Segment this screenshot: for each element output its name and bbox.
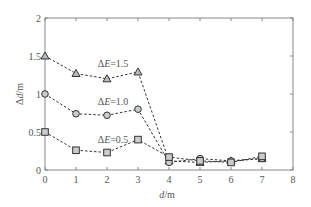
square-marker: [73, 147, 80, 154]
circle-marker: [135, 106, 142, 113]
square-marker: [42, 129, 49, 136]
plot-frame: [45, 18, 293, 170]
triangle-marker: [134, 68, 142, 75]
y-tick-label: 1: [36, 89, 41, 100]
line-chart: 01234567800.511.52d/mΔd/mΔE=1.5ΔE=1.0ΔE=…: [0, 0, 311, 207]
series-annotation: ΔE=1.0: [98, 96, 129, 107]
square-marker: [166, 154, 173, 161]
y-tick-label: 0.5: [29, 127, 42, 138]
x-tick-label: 7: [260, 174, 265, 185]
series-annotation: ΔE=0.5: [98, 134, 129, 145]
y-tick-label: 0: [36, 165, 41, 176]
y-tick-label: 1.5: [29, 51, 42, 62]
square-marker: [259, 153, 266, 160]
x-tick-label: 1: [74, 174, 79, 185]
x-tick-label: 3: [136, 174, 141, 185]
square-marker: [197, 158, 204, 165]
y-tick-label: 2: [36, 13, 41, 24]
square-marker: [104, 149, 111, 156]
y-axis-label: Δd/m: [14, 83, 25, 105]
x-tick-label: 0: [43, 174, 48, 185]
series-annotation: ΔE=1.5: [98, 58, 129, 69]
x-tick-label: 8: [291, 174, 296, 185]
circle-marker: [104, 112, 111, 119]
square-marker: [228, 159, 235, 166]
x-axis-label: d/m: [159, 189, 175, 200]
x-tick-label: 6: [229, 174, 234, 185]
triangle-marker: [72, 69, 80, 76]
circle-marker: [42, 91, 49, 98]
x-tick-label: 2: [105, 174, 110, 185]
x-tick-label: 5: [198, 174, 203, 185]
square-marker: [135, 136, 142, 143]
x-tick-label: 4: [167, 174, 172, 185]
circle-marker: [73, 110, 80, 117]
